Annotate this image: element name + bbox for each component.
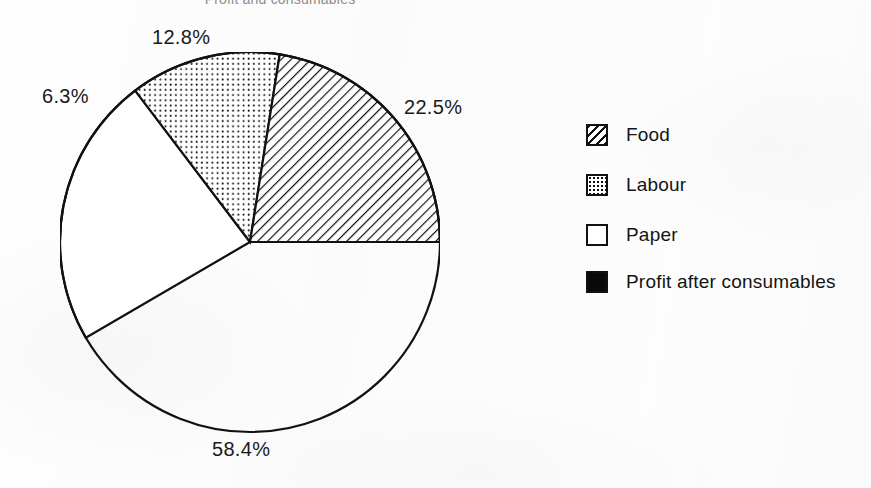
legend-label-labour: Labour	[626, 174, 686, 196]
chart-title: Profit and consumables	[0, 0, 560, 7]
chart-legend: Food Labour Paper Profit after consumabl…	[586, 110, 856, 304]
legend-swatch-food-icon	[586, 124, 608, 146]
pie-label-profit-after-consumables: 58.4%	[212, 438, 270, 461]
legend-item-food: Food	[586, 110, 856, 160]
chart-page: Profit and consumables	[0, 0, 871, 488]
legend-item-profit-after-consumables: Profit after consumables	[586, 260, 856, 304]
pie-svg	[60, 52, 440, 434]
legend-label-paper: Paper	[626, 224, 678, 246]
pie-slice-food	[250, 54, 440, 242]
pie-chart	[60, 52, 440, 434]
pie-label-labour: 12.8%	[152, 26, 210, 49]
legend-label-profit-after-consumables: Profit after consumables	[626, 271, 836, 293]
legend-swatch-paper-icon	[586, 224, 608, 246]
legend-item-paper: Paper	[586, 210, 856, 260]
legend-item-labour: Labour	[586, 160, 856, 210]
legend-label-food: Food	[626, 124, 670, 146]
pie-label-paper: 6.3%	[42, 85, 89, 108]
legend-swatch-profit-after-consumables-icon	[586, 271, 608, 293]
legend-swatch-labour-icon	[586, 174, 608, 196]
pie-label-food: 22.5%	[404, 96, 462, 119]
